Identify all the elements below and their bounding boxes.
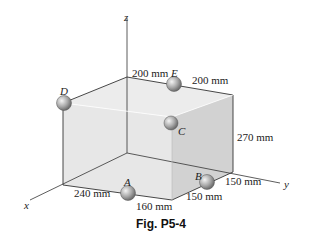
dim-240mm: 240 mm [74,188,110,199]
dim-150mm-y: 150 mm [225,176,261,187]
point-a-label: A [124,177,131,188]
point-e-label: E [171,68,178,79]
dim-160mm: 160 mm [136,201,172,212]
z-axis-label: z [124,12,128,23]
point-c-sphere [164,116,178,130]
dim-150mm-front: 150 mm [186,191,222,202]
box-front-face [63,103,172,200]
figure-caption: Fig. P5-4 [136,217,186,231]
y-axis-label: y [284,179,289,190]
dim-200mm-left: 200 mm [132,68,168,79]
dim-270mm: 270 mm [237,132,273,143]
point-b-label: B [195,171,202,182]
dim-200mm-right: 200 mm [192,75,228,86]
point-d-sphere [57,96,72,111]
point-d-label: D [60,86,68,97]
point-c-label: C [178,126,185,137]
x-axis-label: x [24,200,29,211]
